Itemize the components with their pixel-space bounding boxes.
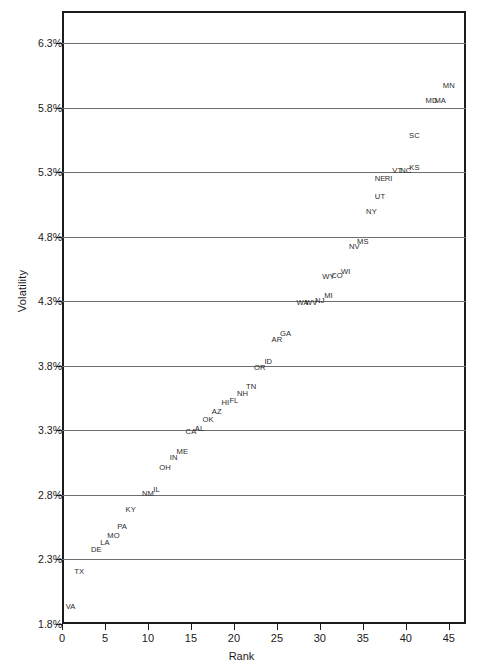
x-tick-mark	[148, 624, 149, 630]
y-tick-label: 4.8%	[16, 231, 62, 243]
x-tick-label: 40	[386, 632, 426, 644]
x-axis-title: Rank	[0, 650, 483, 662]
data-point-label: HI	[221, 400, 229, 408]
gridline	[62, 43, 466, 44]
x-tick-label: 0	[42, 632, 82, 644]
data-point-label: MS	[357, 238, 369, 246]
x-tick-label: 10	[128, 632, 168, 644]
x-tick-label: 45	[429, 632, 469, 644]
data-point-label: AZ	[212, 409, 222, 417]
data-point-label: SC	[409, 132, 420, 140]
y-tick-label: 3.8%	[16, 360, 62, 372]
data-point-label: UT	[375, 193, 385, 201]
x-tick-label: 15	[171, 632, 211, 644]
x-tick-mark	[191, 624, 192, 630]
gridline	[62, 559, 466, 560]
y-tick-label: 3.3%	[16, 424, 62, 436]
gridline	[62, 495, 466, 496]
x-tick-mark	[277, 624, 278, 630]
data-point-label: MI	[324, 292, 333, 300]
data-point-label: RI	[385, 175, 393, 183]
data-point-label: NH	[237, 390, 248, 398]
data-point-label: OH	[159, 464, 171, 472]
data-point-label: MO	[107, 532, 119, 540]
y-tick-label: 4.3%	[16, 295, 62, 307]
data-point-label: NM	[142, 490, 154, 498]
x-tick-label: 20	[214, 632, 254, 644]
data-point-label: GA	[280, 330, 291, 338]
y-tick-label: 2.8%	[16, 489, 62, 501]
data-point-label: TX	[74, 569, 84, 577]
data-point-label: DE	[91, 547, 102, 555]
y-tick-label: 2.3%	[16, 553, 62, 565]
data-point-label: MN	[443, 82, 455, 90]
x-tick-label: 30	[300, 632, 340, 644]
x-tick-mark	[363, 624, 364, 630]
x-tick-label: 25	[257, 632, 297, 644]
data-point-label: IL	[153, 486, 160, 494]
data-point-label: WI	[341, 268, 350, 276]
x-tick-mark	[105, 624, 106, 630]
x-tick-mark	[62, 624, 63, 630]
data-point-label: AL	[195, 425, 205, 433]
plot-area	[62, 11, 466, 624]
gridline	[62, 301, 466, 302]
scatter-chart: Volatility 1.8%2.3%2.8%3.3%3.8%4.3%4.8%5…	[0, 0, 483, 672]
y-tick-label: 6.3%	[16, 37, 62, 49]
x-tick-mark	[449, 624, 450, 630]
data-point-label: ME	[177, 449, 189, 457]
gridline	[62, 108, 466, 109]
data-point-label: MA	[434, 98, 446, 106]
x-tick-mark	[234, 624, 235, 630]
gridline	[62, 430, 466, 431]
y-tick-label: 1.8%	[16, 618, 62, 630]
gridline	[62, 237, 466, 238]
data-point-label: NY	[366, 209, 377, 217]
x-tick-mark	[320, 624, 321, 630]
data-point-label: KS	[409, 165, 419, 173]
data-point-label: TN	[246, 383, 256, 391]
data-point-label: KY	[126, 507, 136, 515]
data-point-label: ID	[264, 358, 272, 366]
y-tick-label: 5.3%	[16, 166, 62, 178]
x-tick-label: 35	[343, 632, 383, 644]
data-point-label: PA	[117, 523, 127, 531]
data-point-label: OK	[203, 416, 214, 424]
x-tick-label: 5	[85, 632, 125, 644]
y-axis-title: Volatility	[16, 231, 28, 351]
data-point-label: VA	[66, 603, 76, 611]
y-tick-label: 5.8%	[16, 102, 62, 114]
x-tick-mark	[406, 624, 407, 630]
